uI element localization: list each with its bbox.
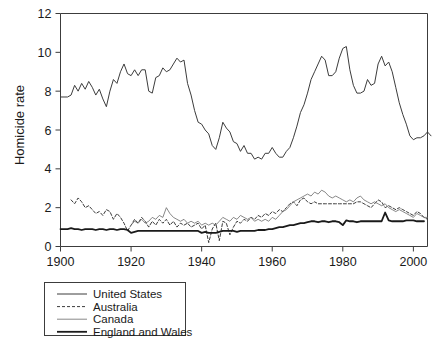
x-tick-label: 1980 — [329, 255, 357, 269]
y-tick-label: 2 — [45, 201, 52, 215]
y-axis-title: Homicide rate — [12, 85, 27, 165]
series-line-england-and-wales — [61, 213, 424, 233]
series-lines — [61, 47, 432, 243]
x-tick-label: 2000 — [399, 255, 427, 269]
y-axis-title-group: Homicide rate — [12, 85, 27, 165]
x-axis-tick-labels: 190019201940196019802000 — [47, 255, 428, 269]
y-axis-tick-marks — [56, 14, 61, 247]
y-tick-label: 6 — [45, 124, 52, 138]
chart-legend: United StatesAustraliaCanadaEngland and … — [45, 283, 193, 338]
y-tick-label: 4 — [45, 162, 52, 176]
legend-label-canada: Canada — [93, 313, 134, 325]
series-line-australia — [71, 198, 427, 243]
x-tick-label: 1960 — [258, 255, 286, 269]
x-tick-label: 1920 — [117, 255, 145, 269]
legend-label-australia: Australia — [93, 301, 138, 313]
series-line-united-states — [61, 47, 432, 160]
x-tick-label: 1900 — [47, 255, 75, 269]
plot-frame — [61, 14, 428, 247]
y-tick-label: 12 — [38, 7, 52, 21]
legend-label-united-states: United States — [93, 288, 162, 300]
legend-label-england-and-wales: England and Wales — [93, 326, 193, 338]
chart-page: Homicide rate 024681012 1900192019401960… — [0, 0, 440, 360]
y-tick-label: 8 — [45, 85, 52, 99]
x-tick-label: 1940 — [188, 255, 216, 269]
y-axis-tick-labels: 024681012 — [38, 7, 52, 254]
homicide-rate-line-chart: Homicide rate 024681012 1900192019401960… — [0, 0, 440, 360]
y-tick-label: 10 — [38, 46, 52, 60]
y-tick-label: 0 — [45, 240, 52, 254]
x-axis-tick-marks — [61, 247, 414, 252]
